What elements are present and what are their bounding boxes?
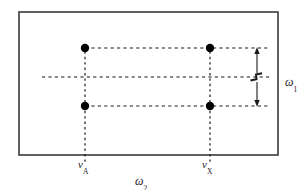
nu-x-subscript: X — [207, 167, 212, 176]
figure-root: νA νX ω2 ω1 — [0, 0, 305, 190]
peak-bottom-left — [81, 102, 89, 110]
tick-label-nu-a: νA — [78, 155, 88, 171]
axis-label-omega-2: ω2 — [135, 172, 147, 188]
tick-label-nu-x: νX — [202, 155, 212, 171]
axis-label-omega-1: ω1 — [285, 73, 297, 89]
spectrum-frame — [19, 12, 278, 155]
nu-a-subscript: A — [83, 167, 88, 176]
peak-bottom-right — [206, 102, 214, 110]
nmr-spectrum-figure — [0, 0, 305, 190]
peak-top-left — [81, 44, 89, 52]
peak-top-right — [206, 44, 214, 52]
omega-1-subscript: 1 — [293, 85, 297, 94]
omega-2-subscript: 2 — [143, 184, 147, 190]
